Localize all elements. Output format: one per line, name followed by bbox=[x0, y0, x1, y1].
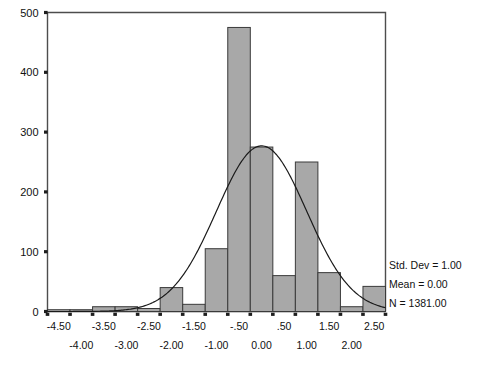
stat-mean: Mean = 0.00 bbox=[389, 278, 448, 290]
stat-std-dev: Std. Dev = 1.00 bbox=[389, 259, 462, 271]
histogram-chart: 0100200300400500 -4.50-3.50-2.50-1.50-.5… bbox=[0, 0, 480, 375]
stat-n: N = 1381.00 bbox=[389, 297, 447, 309]
annotation-layer: Std. Dev = 1.00 Mean = 0.00 N = 1381.00 bbox=[0, 0, 480, 375]
